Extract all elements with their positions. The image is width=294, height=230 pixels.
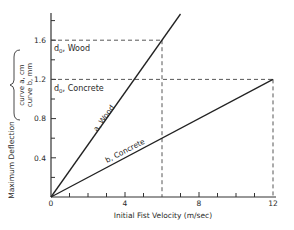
y-unit-a: curve a, cm [18,64,26,105]
chart-plot: 1.6 1.2 0.8 0.4 0 4 8 12 d0, Wood d0, Co… [0,0,294,230]
x-axis-title: Initial Fist Velocity (m/sec) [114,211,212,220]
y-axis-title: Maximum Deflection [7,121,16,199]
x-tick-label: 8 [197,199,202,208]
x-tick-label: 0 [49,199,54,208]
y-unit-b: curve b, mm [26,63,34,108]
curve-label-wood: a, Wood [91,103,116,133]
chart: 1.6 1.2 0.8 0.4 0 4 8 12 d0, Wood d0, Co… [0,0,294,230]
y-tick-label: 1.2 [34,75,46,84]
y-tick-label: 0.4 [34,154,46,163]
series-wood-line [51,14,181,197]
annotation-d0-wood: d0, Wood [54,44,90,54]
x-tick-label: 4 [123,199,128,208]
y-tick-label: 1.6 [34,36,46,45]
x-tick-label: 12 [268,199,278,208]
curve-label-concrete: b, Concrete [104,137,147,165]
annotation-d0-concrete: d0, Concrete [54,84,104,94]
reference-lines [51,40,273,197]
y-tick-label: 0.8 [34,114,46,123]
